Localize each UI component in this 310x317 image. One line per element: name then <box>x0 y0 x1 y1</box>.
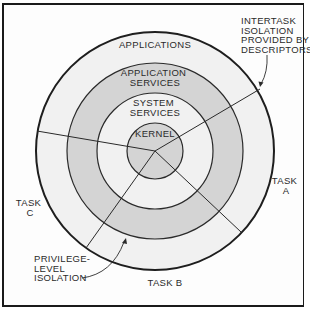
annotation-privilege-level-isolation: PRIVILEGE- LEVEL ISOLATION <box>34 253 93 283</box>
intertask-arrow-leader <box>261 55 267 84</box>
intertask-arrowhead-icon <box>259 82 264 88</box>
label-task-b: TASK B <box>148 277 183 288</box>
label-kernel: KERNEL <box>135 128 175 139</box>
label-applications: APPLICATIONS <box>119 39 191 50</box>
label-task-a: TASK A <box>272 175 300 196</box>
label-task-c: TASK C <box>16 197 44 218</box>
label-system-services: SYSTEM SERVICES <box>130 97 180 118</box>
annotation-intertask-isolation: INTERTASK ISOLATION PROVIDED BY DESCRIPT… <box>241 15 310 55</box>
label-application-services: APPLICATION SERVICES <box>121 67 189 88</box>
ring-diagram: APPLICATIONS APPLICATION SERVICES SYSTEM… <box>0 0 310 317</box>
